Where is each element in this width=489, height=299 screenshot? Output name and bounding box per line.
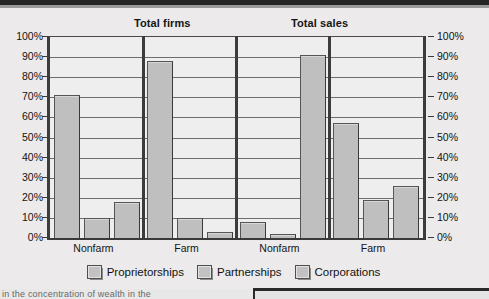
- y-tick-label-right: 30%: [437, 172, 458, 182]
- bar-partnerships-total-firms-nonfarm: [84, 218, 110, 238]
- group-divider-line: [235, 36, 238, 239]
- y-tick-label-left: 60%: [22, 111, 43, 121]
- y-tick-label-left: 20%: [22, 192, 43, 202]
- plot-area: [47, 36, 426, 240]
- bar-proprietorships-total-sales-farm: [333, 123, 359, 238]
- y-tick-mark-right: [428, 177, 434, 178]
- y-tick-mark-right: [428, 76, 434, 77]
- bar-corporations-total-sales-nonfarm: [300, 55, 326, 238]
- bar-corporations-total-sales-farm: [393, 186, 419, 238]
- x-label-firms-nonfarm: Nonfarm: [47, 242, 140, 254]
- bar-proprietorships-total-firms-farm: [147, 61, 173, 238]
- bar-corporations-total-firms-farm: [207, 232, 233, 238]
- legend-label-corporations: Corporations: [315, 266, 381, 278]
- y-tick-mark-right: [428, 157, 434, 158]
- y-tick-label-left: 10%: [22, 212, 43, 222]
- panel-title-total-firms: Total firms: [134, 17, 191, 29]
- bar-chart-figure: Total firms Total sales 100%90%80%70%60%…: [0, 8, 489, 289]
- y-tick-label-left: 30%: [22, 172, 43, 182]
- legend-item-corporations: Corporations: [295, 265, 381, 279]
- page-canvas: Total firms Total sales 100%90%80%70%60%…: [0, 0, 489, 299]
- bar-proprietorships-total-sales-nonfarm: [240, 222, 266, 238]
- bar-proprietorships-total-firms-nonfarm: [54, 95, 80, 238]
- y-tick-label-right: 50%: [437, 132, 458, 142]
- page-footer-block: [253, 288, 489, 299]
- page-footer-fragment: in the concentration of wealth in the: [2, 289, 151, 299]
- y-tick-label-left: 90%: [22, 51, 43, 61]
- group-divider-line: [142, 36, 145, 239]
- x-label-sales-farm: Farm: [326, 242, 420, 254]
- y-tick-label-right: 10%: [437, 212, 458, 222]
- y-tick-label-left: 40%: [22, 152, 43, 162]
- y-tick-mark-right: [428, 56, 434, 57]
- legend-label-proprietorships: Proprietorships: [107, 266, 184, 278]
- y-axis-right: 100%90%80%70%60%50%40%30%20%10%0%: [428, 36, 484, 237]
- y-tick-mark-right: [428, 96, 434, 97]
- panel-title-total-sales: Total sales: [291, 17, 348, 29]
- y-tick-mark-right: [428, 237, 434, 238]
- y-tick-mark-right: [428, 36, 434, 37]
- y-tick-label-left: 100%: [16, 31, 43, 41]
- legend-swatch-icon: [197, 265, 212, 279]
- y-tick-label-left: 70%: [22, 91, 43, 101]
- y-tick-label-right: 40%: [437, 152, 458, 162]
- legend-item-proprietorships: Proprietorships: [87, 265, 184, 279]
- legend-swatch-icon: [295, 265, 310, 279]
- legend-item-partnerships: Partnerships: [197, 265, 282, 279]
- group-divider-line: [328, 36, 331, 239]
- y-tick-mark-right: [428, 137, 434, 138]
- x-label-firms-farm: Farm: [140, 242, 233, 254]
- chart-legend: Proprietorships Partnerships Corporation…: [47, 261, 420, 283]
- y-tick-label-right: 60%: [437, 111, 458, 121]
- y-tick-label-right: 0%: [437, 232, 452, 242]
- bar-corporations-total-firms-nonfarm: [114, 202, 140, 238]
- bar-partnerships-total-firms-farm: [177, 218, 203, 238]
- y-tick-mark-right: [428, 217, 434, 218]
- y-tick-label-left: 80%: [22, 71, 43, 81]
- y-tick-label-left: 0%: [28, 232, 43, 242]
- bar-partnerships-total-sales-nonfarm: [270, 234, 296, 238]
- y-tick-label-left: 50%: [22, 132, 43, 142]
- y-tick-label-right: 100%: [437, 31, 464, 41]
- bar-partnerships-total-sales-farm: [363, 200, 389, 238]
- legend-label-partnerships: Partnerships: [217, 266, 282, 278]
- y-tick-mark-right: [428, 116, 434, 117]
- x-label-sales-nonfarm: Nonfarm: [233, 242, 326, 254]
- y-tick-label-right: 70%: [437, 91, 458, 101]
- y-tick-label-right: 80%: [437, 71, 458, 81]
- y-tick-label-right: 20%: [437, 192, 458, 202]
- y-tick-mark-right: [428, 197, 434, 198]
- y-axis-left: 100%90%80%70%60%50%40%30%20%10%0%: [0, 36, 43, 237]
- y-tick-label-right: 90%: [437, 51, 458, 61]
- legend-swatch-icon: [87, 265, 102, 279]
